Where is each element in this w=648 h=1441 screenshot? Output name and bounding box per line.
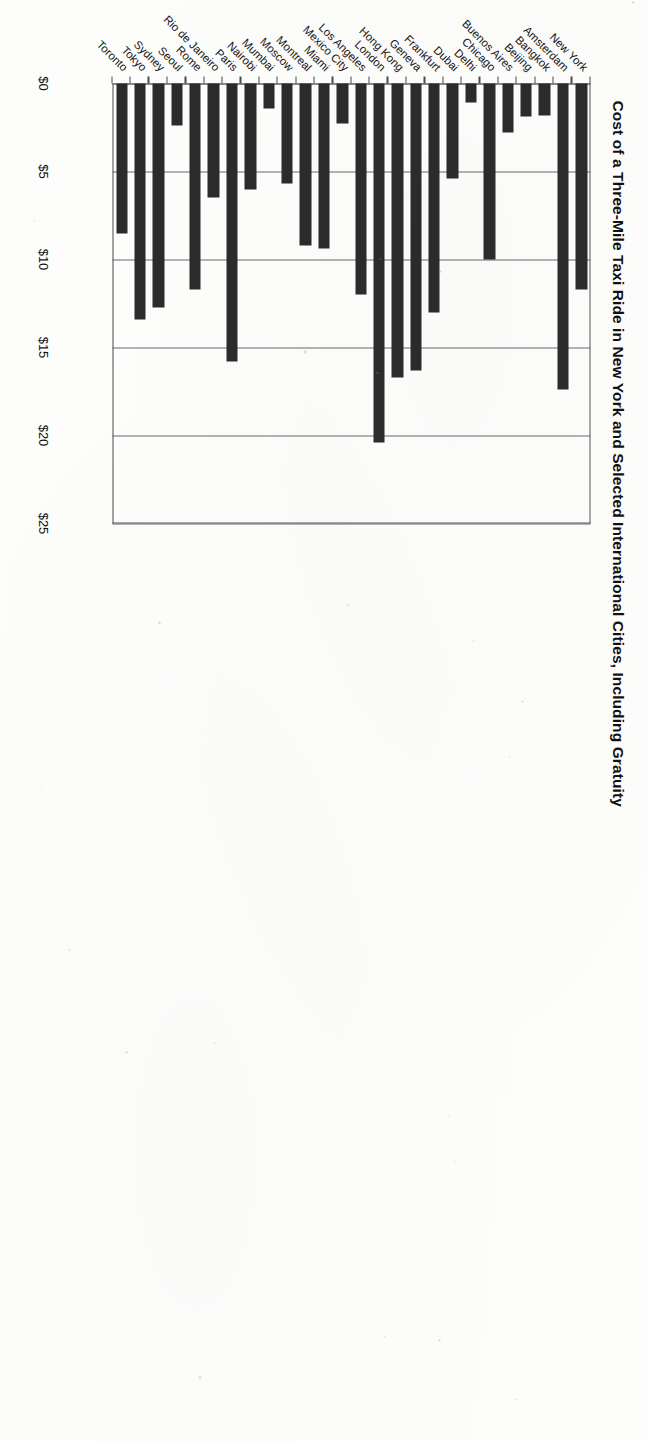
chart-figure: Cost of a Three-Mile Taxi Ride in New Yo… [0,0,648,1441]
value-axis-labels: $0$5$10$15$20$25 [0,0,648,1441]
value-tick-label: $10 [35,248,50,270]
rotated-chart-container: Cost of a Three-Mile Taxi Ride in New Yo… [0,0,648,1441]
value-tick-label: $0 [35,76,50,90]
value-tick-label: $25 [35,512,50,534]
value-tick-label: $15 [35,336,50,358]
value-tick-label: $5 [35,164,50,178]
value-tick-label: $20 [35,424,50,446]
scanned-chart-page: Cost of a Three-Mile Taxi Ride in New Yo… [0,0,648,1441]
